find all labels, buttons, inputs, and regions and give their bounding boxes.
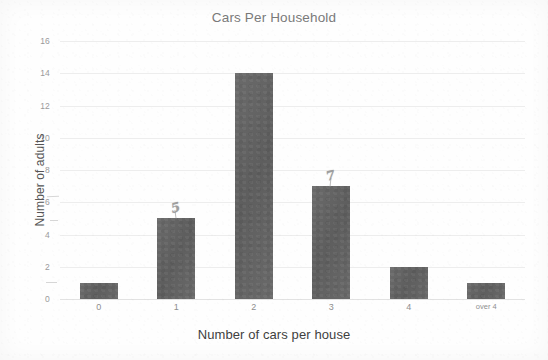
bar-2: [235, 73, 273, 299]
y-tick-label-4: 4: [45, 230, 50, 240]
gridline-0: [60, 299, 525, 300]
x-tick-label-4: 4: [406, 302, 411, 312]
x-tick-label-2: 2: [251, 302, 256, 312]
bar-over-4: [467, 283, 505, 299]
x-tick-label-3: 3: [329, 302, 334, 312]
y-tick-label-12: 12: [40, 101, 50, 111]
x-axis-tick-labels: 01234over 4: [60, 302, 525, 318]
bar-1: [157, 218, 195, 299]
bar-series: [60, 41, 525, 299]
x-tick-label-1: 1: [174, 302, 179, 312]
bar-chart: Cars Per Household 0246810121416 Number …: [0, 0, 548, 360]
bar-slot: [138, 41, 216, 299]
y-tick-label-0: 0: [45, 294, 50, 304]
bar-slot: [370, 41, 448, 299]
y-axis-tick-labels: 0246810121416: [0, 0, 56, 360]
bar-0: [80, 283, 118, 299]
bar-slot: [448, 41, 526, 299]
x-tick-label-0: 0: [96, 302, 101, 312]
x-tick-label-over-4: over 4: [476, 302, 497, 311]
bar-slot: [60, 41, 138, 299]
bar-4: [390, 267, 428, 299]
bar-3: [312, 186, 350, 299]
bar-slot: [293, 41, 371, 299]
chart-title: Cars Per Household: [0, 10, 548, 25]
y-axis-title: Number of adults: [33, 134, 47, 227]
y-tick-label-16: 16: [40, 36, 50, 46]
y-tick-label-2: 2: [45, 262, 50, 272]
y-tick-label-14: 14: [40, 68, 50, 78]
x-axis-title: Number of cars per house: [0, 327, 548, 342]
bar-slot: [215, 41, 293, 299]
